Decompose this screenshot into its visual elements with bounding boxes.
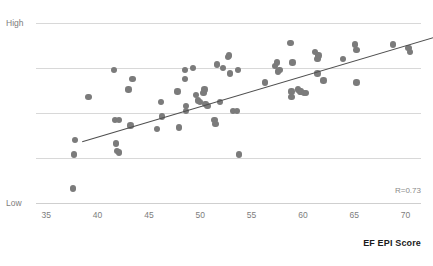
data-point bbox=[129, 76, 135, 82]
data-point bbox=[212, 121, 218, 127]
data-point bbox=[159, 113, 165, 119]
data-point bbox=[214, 61, 220, 67]
data-point bbox=[190, 65, 196, 71]
data-point bbox=[276, 67, 282, 73]
gridline bbox=[36, 203, 421, 204]
x-tick-label-40: 40 bbox=[93, 210, 102, 220]
x-tick-label-55: 55 bbox=[247, 210, 256, 220]
data-point bbox=[111, 67, 117, 73]
y-axis-high-label: High bbox=[6, 18, 23, 28]
plot-area bbox=[36, 23, 421, 203]
x-tick-label-60: 60 bbox=[298, 210, 307, 220]
data-point bbox=[116, 117, 122, 123]
x-tick-label-45: 45 bbox=[144, 210, 153, 220]
data-point bbox=[72, 137, 78, 143]
x-axis-title: EF EPI Score bbox=[363, 238, 421, 248]
data-point bbox=[71, 151, 77, 157]
data-point bbox=[353, 47, 359, 53]
data-point bbox=[407, 49, 413, 55]
x-tick-label-50: 50 bbox=[196, 210, 205, 220]
data-point bbox=[201, 86, 207, 92]
x-tick-label-65: 65 bbox=[350, 210, 359, 220]
gridline bbox=[36, 68, 421, 69]
data-point bbox=[154, 126, 160, 132]
correlation-annotation: R=0.73 bbox=[395, 186, 421, 195]
data-point bbox=[116, 149, 122, 155]
y-axis-low-label: Low bbox=[6, 198, 22, 208]
gridline bbox=[36, 23, 421, 24]
data-point bbox=[182, 76, 188, 82]
data-point bbox=[303, 90, 309, 96]
data-point bbox=[158, 99, 164, 105]
data-point bbox=[125, 86, 131, 92]
data-point bbox=[127, 122, 133, 128]
data-point bbox=[287, 40, 293, 46]
data-point bbox=[289, 59, 295, 65]
data-point bbox=[182, 67, 188, 73]
gridline bbox=[36, 158, 421, 159]
data-point bbox=[315, 52, 321, 58]
data-point bbox=[217, 99, 223, 105]
data-point bbox=[235, 67, 241, 73]
data-point bbox=[262, 79, 268, 85]
x-tick-label-35: 35 bbox=[42, 210, 51, 220]
data-point bbox=[288, 94, 294, 100]
data-point bbox=[236, 151, 242, 157]
data-point bbox=[226, 52, 232, 58]
scatter-chart: High Low 3540455055606570 R=0.73 EF EPI … bbox=[0, 0, 433, 266]
data-point bbox=[340, 56, 346, 62]
data-point bbox=[113, 140, 119, 146]
data-point bbox=[85, 94, 91, 100]
data-point bbox=[314, 70, 320, 76]
data-point bbox=[227, 70, 233, 76]
data-point bbox=[204, 103, 210, 109]
data-point bbox=[390, 41, 396, 47]
data-point bbox=[274, 59, 280, 65]
data-point bbox=[220, 65, 226, 71]
x-tick-label-70: 70 bbox=[401, 210, 410, 220]
data-point bbox=[353, 79, 359, 85]
gridline bbox=[36, 113, 421, 114]
data-point bbox=[320, 77, 326, 83]
data-point bbox=[70, 185, 76, 191]
data-point bbox=[176, 124, 182, 130]
data-point bbox=[174, 88, 180, 94]
